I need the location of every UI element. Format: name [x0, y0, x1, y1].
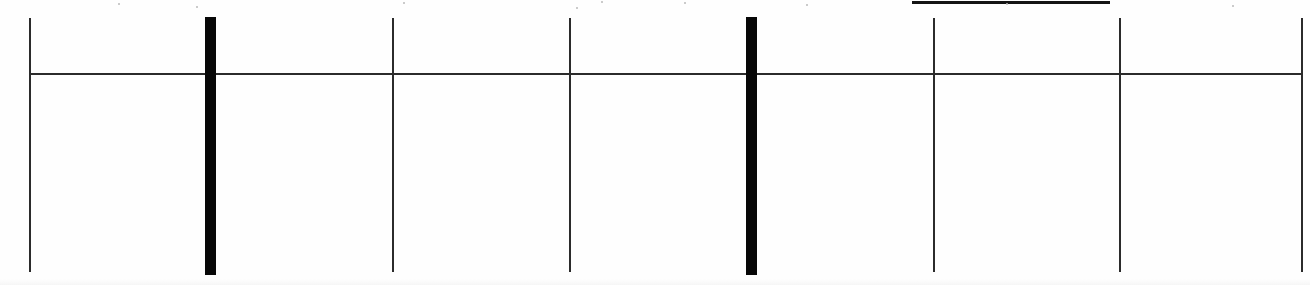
scan-speck: [806, 4, 808, 6]
column-rule-3: [392, 18, 394, 272]
column-rule-6: [933, 18, 935, 272]
scan-speck: [1006, 3, 1008, 5]
paper-surface: [0, 0, 1310, 285]
column-rule-1: [29, 18, 31, 272]
column-rule-4: [569, 18, 571, 272]
scan-speck: [403, 2, 405, 4]
scan-speck: [118, 3, 120, 5]
scan-speck: [576, 7, 578, 9]
column-rule-8: [1301, 18, 1303, 272]
page-bottom-edge-shade: [0, 279, 1310, 285]
scan-speck: [1232, 5, 1234, 7]
scan-speck: [601, 1, 603, 3]
clipped-underline-fragment: [912, 1, 1110, 4]
column-rule-7: [1119, 18, 1121, 272]
horizontal-header-rule: [29, 73, 1303, 75]
scanned-page: [0, 0, 1310, 285]
column-rule-5: [746, 17, 757, 275]
column-rule-2: [205, 17, 216, 275]
scan-speck: [684, 2, 686, 4]
scan-speck: [196, 6, 198, 8]
